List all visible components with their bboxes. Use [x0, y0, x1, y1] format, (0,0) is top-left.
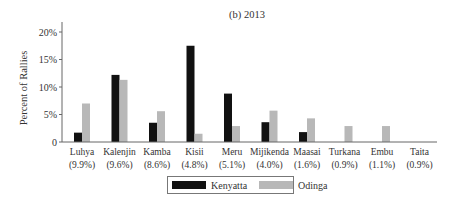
bar-kenyatta-kamba [149, 123, 157, 142]
legend-item-kenyatta: Kenyatta [172, 180, 247, 191]
y-tick-label: 20% [39, 27, 57, 38]
legend-swatch-kenyatta [172, 181, 206, 189]
y-axis-title: Percent of Rallies [18, 51, 29, 126]
bar-odinga-mijikenda [270, 111, 278, 142]
bar-odinga-meru [232, 126, 240, 142]
bar-kenyatta-maasai [299, 132, 307, 142]
legend-label-odinga: Odinga [298, 180, 327, 191]
legend-item-odinga: Odinga [259, 180, 327, 191]
x-category-sublabel: (4.0%) [256, 160, 282, 171]
bar-kenyatta-luhya [74, 133, 82, 142]
y-tick-label: 10% [39, 82, 57, 93]
x-axis: Luhya(9.9%)Kalenjin(9.6%)Kamba(8.6%)Kisi… [62, 142, 437, 171]
x-category-label: Turkana [329, 147, 361, 157]
bar-odinga-kisii [195, 134, 203, 142]
chart-title: (b) 2013 [229, 9, 265, 21]
bar-kenyatta-kisii [187, 46, 195, 142]
bar-chart: (b) 2013 Percent of Rallies 05%10%15%20%… [0, 0, 457, 176]
bar-odinga-maasai [307, 118, 315, 142]
y-axis: 05%10%15%20% [39, 22, 62, 148]
bar-odinga-luhya [82, 104, 90, 143]
x-category-label: Kisii [185, 147, 204, 157]
x-category-label: Taita [410, 147, 430, 157]
x-category-sublabel: (8.6%) [144, 160, 170, 171]
x-category-label: Maasai [293, 147, 321, 157]
x-category-label: Kamba [143, 147, 171, 157]
x-category-sublabel: (5.1%) [219, 160, 245, 171]
bar-kenyatta-mijikenda [262, 122, 270, 142]
legend-label-kenyatta: Kenyatta [211, 180, 247, 191]
x-category-label: Mijikenda [250, 147, 290, 157]
x-category-sublabel: (1.1%) [369, 160, 395, 171]
x-category-sublabel: (4.8%) [181, 160, 207, 171]
bars [74, 46, 390, 142]
x-category-label: Luhya [70, 147, 95, 157]
legend-swatch-odinga [259, 181, 293, 189]
y-tick-label: 0 [52, 137, 57, 148]
bar-odinga-embu [382, 126, 390, 142]
bar-kenyatta-meru [224, 94, 232, 142]
x-category-label: Meru [222, 147, 243, 157]
legend: Kenyatta Odinga [167, 176, 294, 194]
x-category-label: Kalenjin [103, 147, 136, 157]
x-category-sublabel: (0.9%) [331, 160, 357, 171]
x-category-sublabel: (1.6%) [294, 160, 320, 171]
y-tick-label: 5% [44, 109, 57, 120]
x-category-sublabel: (9.6%) [106, 160, 132, 171]
bar-odinga-kalenjin [120, 80, 128, 142]
bar-kenyatta-kalenjin [112, 75, 120, 142]
x-category-sublabel: (9.9%) [69, 160, 95, 171]
y-tick-label: 15% [39, 54, 57, 65]
bar-odinga-turkana [345, 126, 353, 142]
x-category-sublabel: (0.9%) [406, 160, 432, 171]
bar-odinga-kamba [157, 111, 165, 142]
x-category-label: Embu [371, 147, 394, 157]
